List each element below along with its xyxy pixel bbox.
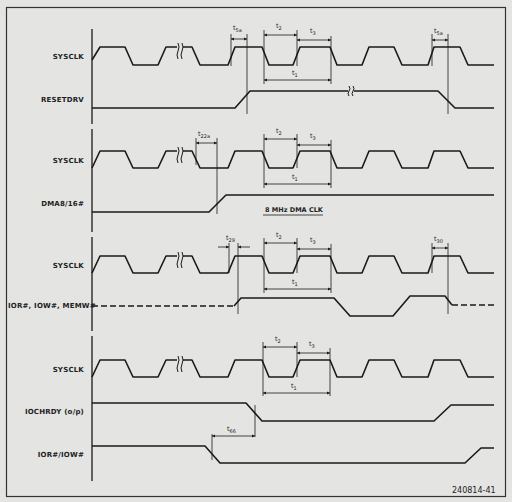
sysclk-waveform-1 bbox=[92, 47, 494, 65]
sysclk-waveform-4 bbox=[92, 360, 494, 377]
signal-label-ior-iow-memw: IOR#, IOW#, MEMW# bbox=[8, 302, 84, 310]
signal-label-sysclk-2: SYSCLK bbox=[20, 157, 84, 165]
timing-label-t22a: t22a bbox=[198, 130, 210, 139]
dma-clock-note: 8 MHz DMA CLK bbox=[265, 206, 323, 214]
signal-label-sysclk-1: SYSCLK bbox=[20, 53, 84, 61]
timing-label-t1-s2: t1 bbox=[292, 173, 298, 182]
timing-label-t30: t30 bbox=[434, 235, 443, 244]
timing-label-t3-s2: t3 bbox=[310, 132, 316, 141]
timing-label-t3-s1: t3 bbox=[310, 27, 316, 36]
timing-diagram bbox=[0, 0, 512, 502]
sysclk-waveform-3 bbox=[92, 256, 494, 273]
timing-label-t5a-left: t5a bbox=[233, 24, 242, 33]
timing-label-t29: t29 bbox=[226, 234, 235, 243]
sysclk-waveform-2 bbox=[92, 151, 494, 168]
signal-label-dma816: DMA8/16# bbox=[20, 200, 84, 208]
timing-label-t1-s1: t1 bbox=[292, 69, 298, 78]
timing-label-t1-s3: t1 bbox=[292, 278, 298, 287]
signal-label-iochrdy: IOCHRDY (o/p) bbox=[14, 408, 84, 416]
resetdrv-waveform bbox=[92, 91, 494, 108]
ior-iow-memw-waveform bbox=[234, 296, 452, 316]
figure-frame bbox=[7, 8, 506, 497]
signal-label-resetdrv: RESETDRV bbox=[20, 96, 84, 104]
iochrdy-waveform bbox=[92, 403, 494, 421]
timing-label-t3-s4: t3 bbox=[309, 340, 315, 349]
signal-label-sysclk-4: SYSCLK bbox=[20, 366, 84, 374]
signal-label-ior-iow: IOR#/IOW# bbox=[20, 451, 84, 459]
timing-label-t2-s2: t2 bbox=[276, 127, 282, 136]
timing-label-t3-s3: t3 bbox=[310, 236, 316, 245]
timing-label-t2-s3: t2 bbox=[276, 231, 282, 240]
signal-label-sysclk-3: SYSCLK bbox=[20, 262, 84, 270]
timing-label-t5a-right: t5a bbox=[434, 27, 443, 36]
timing-label-t2-s4: t2 bbox=[275, 335, 281, 344]
ior-iow-waveform bbox=[92, 446, 494, 463]
timing-label-t66: t66 bbox=[227, 425, 236, 434]
timing-label-t1-s4: t1 bbox=[291, 382, 297, 391]
figure-id: 240814-41 bbox=[452, 486, 496, 495]
timing-label-t2-s1: t2 bbox=[276, 22, 282, 31]
